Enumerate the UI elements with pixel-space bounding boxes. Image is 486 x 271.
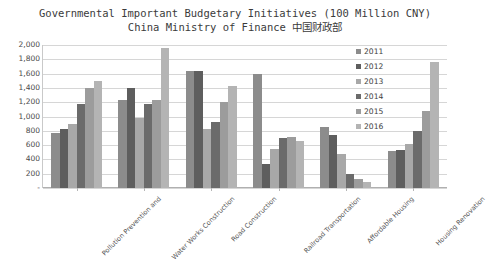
legend-swatch-icon xyxy=(356,79,361,84)
legend-label: 2011 xyxy=(364,47,383,56)
bar xyxy=(135,118,144,188)
y-axis-tick-label: 600 xyxy=(2,141,40,149)
bar xyxy=(287,137,296,188)
bar xyxy=(337,154,346,188)
bar-group xyxy=(245,45,312,188)
legend-swatch-icon xyxy=(356,49,361,54)
legend-label: 2012 xyxy=(364,62,383,71)
bar xyxy=(161,48,170,188)
legend-label: 2015 xyxy=(364,107,383,116)
bar xyxy=(68,124,77,188)
legend-swatch-icon xyxy=(356,94,361,99)
bar xyxy=(346,174,355,188)
y-axis-tick-label: 1,800 xyxy=(2,55,40,63)
x-axis-label: Railroad Transportation xyxy=(302,195,362,255)
bar xyxy=(354,179,363,188)
bar xyxy=(363,182,372,188)
bar xyxy=(430,62,439,188)
x-axis-label: Water Works Construction xyxy=(170,195,236,261)
legend-swatch-icon xyxy=(356,124,361,129)
legend-item[interactable]: 2011 xyxy=(356,44,416,59)
legend-item[interactable]: 2016 xyxy=(356,119,416,134)
chart-title-block: Governmental Important Budgetary Initiat… xyxy=(0,6,470,34)
bar xyxy=(388,151,397,188)
bar xyxy=(228,86,237,188)
bar xyxy=(118,100,127,188)
legend-label: 2014 xyxy=(364,92,383,101)
x-axis-label: Housing Renovation xyxy=(434,195,486,247)
x-axis-label: Pollution Prevention and xyxy=(101,195,163,257)
bar-group xyxy=(178,45,245,188)
x-axis-label: Affordable Housing xyxy=(366,195,416,245)
bar xyxy=(220,102,229,188)
y-axis-tick-label: 1,600 xyxy=(2,70,40,78)
y-axis-tick-label: 200 xyxy=(2,170,40,178)
legend-label: 2013 xyxy=(364,77,383,86)
bar xyxy=(85,88,94,188)
y-axis-tick-label: - xyxy=(2,184,40,192)
bar-group xyxy=(110,45,177,188)
bar xyxy=(144,104,153,188)
gridline xyxy=(43,188,447,189)
x-axis-label: Road Construction xyxy=(230,195,279,244)
chart-title: Governmental Important Budgetary Initiat… xyxy=(0,6,470,20)
bar xyxy=(296,141,305,188)
y-axis-tick-label: 2,000 xyxy=(2,41,40,49)
bar xyxy=(329,135,338,188)
bar xyxy=(94,81,103,188)
bar xyxy=(194,71,203,188)
legend-item[interactable]: 2012 xyxy=(356,59,416,74)
legend-swatch-icon xyxy=(356,64,361,69)
bar xyxy=(279,138,288,188)
legend: 201120122013201420152016 xyxy=(356,44,416,134)
bar xyxy=(270,149,279,188)
bar xyxy=(253,74,262,188)
bar xyxy=(396,150,405,188)
bar xyxy=(413,131,422,188)
bar xyxy=(77,104,86,188)
y-axis-tick-label: 800 xyxy=(2,127,40,135)
legend-label: 2016 xyxy=(364,122,383,131)
bar xyxy=(152,100,161,188)
bar xyxy=(60,129,69,188)
bar-group xyxy=(43,45,110,188)
y-axis-tick-label: 400 xyxy=(2,155,40,163)
x-axis-labels: Pollution Prevention andWater Works Cons… xyxy=(42,191,447,271)
y-axis: 2,0001,8001,6001,4001,2001,0008006004002… xyxy=(0,45,40,188)
bar xyxy=(422,111,431,188)
bar xyxy=(203,129,212,188)
bar xyxy=(186,71,195,188)
legend-item[interactable]: 2013 xyxy=(356,74,416,89)
bar xyxy=(405,144,414,188)
legend-item[interactable]: 2015 xyxy=(356,104,416,119)
legend-swatch-icon xyxy=(356,109,361,114)
bar xyxy=(262,164,271,188)
y-axis-tick-label: 1,200 xyxy=(2,98,40,106)
bar xyxy=(320,127,329,188)
y-axis-tick-label: 1,000 xyxy=(2,113,40,121)
bar xyxy=(211,122,220,188)
y-axis-tick-label: 1,400 xyxy=(2,84,40,92)
chart-subtitle: China Ministry of Finance 中国财政部 xyxy=(0,20,470,34)
bar xyxy=(127,88,136,188)
bar xyxy=(51,133,60,188)
legend-item[interactable]: 2014 xyxy=(356,89,416,104)
